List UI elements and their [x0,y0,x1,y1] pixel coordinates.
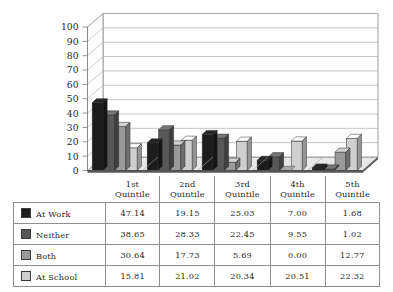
table-value-cell: 21.02 [160,266,215,287]
bar-group [257,156,272,170]
bar-side-face [192,136,196,170]
column-header-line-2: Quintile [271,189,325,199]
bar-side-face [158,139,162,171]
column-header-line-1: 3rd [215,179,269,189]
bar-side-face [103,99,107,171]
legend-swatch-icon [21,229,31,239]
y-axis-tick-label: 40 [67,108,79,119]
bar-group [92,99,107,171]
y-axis-tick-label: 60 [67,79,79,90]
table-column-header: 3rdQuintile [215,176,270,203]
y-axis-tick-label: 80 [67,50,79,61]
table-value-cell: 1.02 [325,224,379,245]
y-axis-tick-label: 20 [67,136,79,147]
table-value-cell: 20.34 [215,266,270,287]
table-value-cell: 1.68 [325,203,379,224]
bar-side-face [169,126,173,171]
bar-side-face [137,144,141,171]
y-axis-tick-label: 50 [67,93,79,104]
table-series-cell: At School [14,266,106,287]
table-value-cell: 17.73 [160,245,215,266]
table-value-cell: 22.32 [325,266,379,287]
bar-front-face [291,141,302,170]
table-series-label: Neither [36,230,69,240]
table-value-cell: 19.15 [160,203,215,224]
column-header-line-1: 1st [106,179,160,189]
legend-swatch-icon [21,208,31,218]
y-axis-tick-label: 30 [67,122,79,133]
column-header-line-1: 2nd [160,179,214,189]
legend-swatch-icon [21,250,31,260]
bar-side-face [213,130,217,170]
column-header-line-1: 5th [326,179,380,189]
table-value-cell: 38.65 [106,224,160,245]
bar-group [291,137,306,171]
table-series-label: At School [36,272,77,282]
table-row: Both30.6417.735.690.0012.77 [14,245,380,266]
table-header-row: 1stQuintile2ndQuintile3rdQuintile4thQuin… [14,176,380,203]
table-row: At Work47.1419.1525.037.001.68 [14,203,380,224]
table-column-header: 2ndQuintile [160,176,215,203]
table-series-label: At Work [36,209,71,219]
table-column-header: 4thQuintile [270,176,325,203]
column-header-line-2: Quintile [215,189,269,199]
y-axis-tick-label: 100 [61,21,79,32]
chart-data-table: 1stQuintile2ndQuintile3rdQuintile4thQuin… [13,176,380,287]
table-value-cell: 0.00 [270,245,325,266]
bar-side-face [302,137,306,171]
bar-side-face [346,148,350,171]
column-header-line-1: 4th [271,179,325,189]
table-series-label: Both [36,251,56,261]
table-series-cell: At Work [14,203,106,224]
clustered-column-chart-3d: 0102030405060708090100 [0,0,393,182]
table-column-header: 1stQuintile [106,176,160,203]
legend-swatch-icon [21,271,31,281]
table-value-cell: 22.45 [215,224,270,245]
table-value-cell: 30.64 [106,245,160,266]
bar-front-face [92,103,103,171]
table-value-cell: 28.33 [160,224,215,245]
table-series-cell: Neither [14,224,106,245]
bar-side-face [247,137,251,170]
y-axis-tick-label: 90 [67,36,79,47]
chart-page: 0102030405060708090100 1stQuintile2ndQui… [0,0,393,292]
bar-front-face [147,143,158,170]
column-header-line-2: Quintile [326,189,380,199]
table-row: Neither38.6528.3322.459.551.02 [14,224,380,245]
bar-side-face [126,122,130,170]
table-value-cell: 5.69 [215,245,270,266]
y-axis-tick-label: 0 [73,165,79,176]
table-corner-cell [14,176,106,203]
bar-side-face [181,141,185,171]
bar-side-face [224,134,228,170]
table-value-cell: 9.55 [270,224,325,245]
table-value-cell: 15.81 [106,266,160,287]
table-column-header: 5thQuintile [325,176,379,203]
table-value-cell: 7.00 [270,203,325,224]
chart-canvas: 0102030405060708090100 [0,0,393,180]
column-header-line-2: Quintile [106,189,160,199]
table-value-cell: 20.51 [270,266,325,287]
bar-group [147,139,162,171]
bar-side-face [357,134,361,170]
column-header-line-2: Quintile [160,189,214,199]
y-axis-tick-label: 70 [67,64,79,75]
table-series-cell: Both [14,245,106,266]
table-value-cell: 47.14 [106,203,160,224]
table-value-cell: 25.03 [215,203,270,224]
table-row: At School15.8121.0220.3420.5122.32 [14,266,380,287]
table-value-cell: 12.77 [325,245,379,266]
bar-side-face [114,111,118,171]
y-axis-tick-label: 10 [67,151,79,162]
